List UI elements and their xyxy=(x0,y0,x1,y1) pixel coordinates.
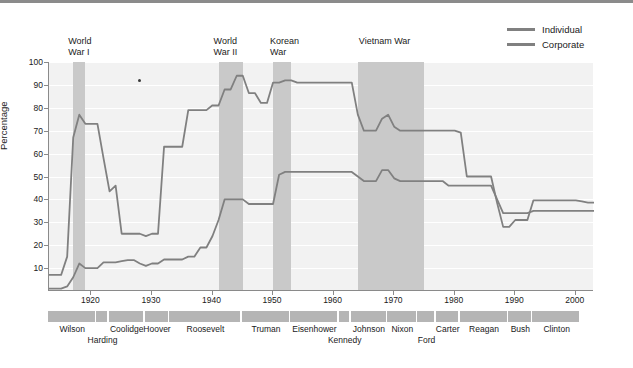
y-tick-mark-80 xyxy=(44,108,48,109)
president-segment-bush xyxy=(508,311,531,322)
y-tick-mark-30 xyxy=(44,222,48,223)
gridline-y-40 xyxy=(49,199,593,200)
chart-legend: Individual Corporate xyxy=(507,22,625,52)
plot-area xyxy=(48,62,593,291)
top-rule xyxy=(0,0,633,3)
x-tick-label-1950: 1950 xyxy=(255,296,289,305)
x-tick-label-1930: 1930 xyxy=(134,296,168,305)
legend-label-individual: Individual xyxy=(542,25,582,35)
annotation-point-0 xyxy=(138,79,141,82)
gridline-y-60 xyxy=(49,154,593,155)
y-tick-label-50: 50 xyxy=(19,173,43,181)
y-tick-mark-70 xyxy=(44,131,48,132)
y-tick-label-30: 30 xyxy=(19,218,43,226)
president-segment-ford xyxy=(417,311,434,322)
president-label-kennedy: Kennedy xyxy=(305,335,385,345)
legend-item-corporate: Corporate xyxy=(507,37,625,52)
president-segment-nixon xyxy=(387,311,416,322)
gridline-y-80 xyxy=(49,108,593,109)
gridline-y-100 xyxy=(49,62,593,63)
gridline-y-50 xyxy=(49,177,593,178)
gridline-y-90 xyxy=(49,85,593,86)
legend-swatch-corporate xyxy=(507,43,535,46)
x-tick-mark-1930 xyxy=(151,291,152,295)
y-tick-label-40: 40 xyxy=(19,195,43,203)
war-label-0: World War I xyxy=(68,36,91,57)
y-tick-mark-60 xyxy=(44,154,48,155)
x-tick-mark-1920 xyxy=(90,291,91,295)
president-label-ford: Ford xyxy=(386,335,466,345)
y-axis-label: Percentage xyxy=(0,101,9,150)
president-segment-clinton xyxy=(532,311,579,322)
president-segment-carter xyxy=(436,311,459,322)
y-tick-label-20: 20 xyxy=(19,241,43,249)
x-tick-mark-2000 xyxy=(575,291,576,295)
x-tick-label-1960: 1960 xyxy=(316,296,350,305)
x-tick-mark-1940 xyxy=(212,291,213,295)
president-segment-kennedy xyxy=(339,311,350,322)
president-band xyxy=(48,311,593,322)
war-band-1 xyxy=(219,62,243,290)
president-label-harding: Harding xyxy=(63,335,143,345)
president-segment-eisenhower xyxy=(290,311,337,322)
x-tick-label-2000: 2000 xyxy=(558,296,592,305)
y-tick-label-60: 60 xyxy=(19,150,43,158)
y-tick-mark-10 xyxy=(44,268,48,269)
legend-label-corporate: Corporate xyxy=(542,40,584,50)
war-band-0 xyxy=(73,62,85,290)
y-tick-mark-90 xyxy=(44,85,48,86)
y-tick-label-70: 70 xyxy=(19,127,43,135)
x-tick-mark-1950 xyxy=(272,291,273,295)
x-tick-mark-1980 xyxy=(454,291,455,295)
president-segment-hoover xyxy=(145,311,168,322)
president-label-clinton: Clinton xyxy=(517,324,597,334)
president-segment-roosevelt xyxy=(169,311,240,322)
legend-swatch-individual xyxy=(507,28,535,31)
x-tick-mark-1970 xyxy=(393,291,394,295)
y-tick-label-90: 90 xyxy=(19,81,43,89)
president-segment-truman xyxy=(242,311,289,322)
x-tick-mark-1990 xyxy=(514,291,515,295)
chart-root: Individual Corporate Percentage 10203040… xyxy=(0,0,633,368)
war-label-3: Vietnam War xyxy=(359,36,411,47)
war-label-1: World War II xyxy=(214,36,238,57)
legend-item-individual: Individual xyxy=(507,22,625,37)
y-tick-mark-100 xyxy=(44,62,48,63)
gridline-y-10 xyxy=(49,268,593,269)
gridline-y-30 xyxy=(49,222,593,223)
y-tick-label-80: 80 xyxy=(19,104,43,112)
president-segment-harding xyxy=(96,311,107,322)
president-segment-coolidge xyxy=(109,311,144,322)
series-line-corporate xyxy=(49,170,594,289)
x-tick-label-1970: 1970 xyxy=(376,296,410,305)
president-segment-wilson xyxy=(48,311,95,322)
y-tick-mark-40 xyxy=(44,199,48,200)
x-tick-label-1940: 1940 xyxy=(195,296,229,305)
x-tick-label-1920: 1920 xyxy=(73,296,107,305)
y-tick-label-10: 10 xyxy=(19,264,43,272)
gridline-y-20 xyxy=(49,245,593,246)
gridline-y-70 xyxy=(49,131,593,132)
president-segment-johnson xyxy=(351,311,386,322)
war-band-3 xyxy=(358,62,425,290)
y-tick-mark-20 xyxy=(44,245,48,246)
y-tick-mark-50 xyxy=(44,177,48,178)
x-tick-label-1990: 1990 xyxy=(497,296,531,305)
war-label-2: Korean War xyxy=(270,36,299,57)
y-tick-label-100: 100 xyxy=(19,58,43,66)
president-segment-reagan xyxy=(460,311,507,322)
x-tick-mark-1960 xyxy=(333,291,334,295)
war-band-2 xyxy=(273,62,291,290)
x-tick-label-1980: 1980 xyxy=(437,296,471,305)
